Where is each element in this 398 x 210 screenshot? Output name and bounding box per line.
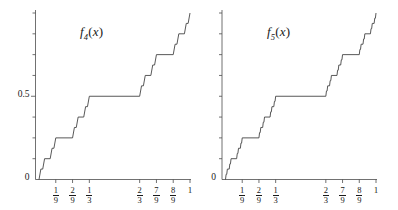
plot-panel-f4: f4(x) 0.501929132379891 [0,0,199,210]
cantor-curve [39,13,190,180]
cantor-curve [226,13,377,180]
plot-panel-f5: f5(x) 01929132379891 [199,0,398,210]
origin-label: 0 [2,172,30,182]
origin-label: 0 [188,172,216,182]
plot-title-f4: f4(x) [80,24,103,42]
y-axis-tick-label: 0.5 [0,89,30,99]
x-axis-tick-label: 13 [79,186,99,205]
plot-canvas-f5 [199,0,398,210]
cantor-function-figure: f4(x) 0.501929132379891 f5(x) 0192913237… [0,0,398,210]
plot-title-f5: f5(x) [267,24,290,42]
x-axis-tick-label: 1 [180,186,200,195]
x-axis-tick-label: 13 [266,186,286,205]
x-axis-tick-label: 1 [366,186,386,195]
